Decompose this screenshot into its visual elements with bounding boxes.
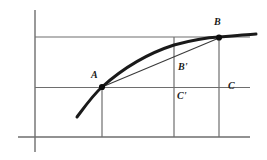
geometry-diagram: A B B' C' C bbox=[0, 0, 267, 160]
point-marker-b bbox=[216, 34, 222, 40]
label-point-c: C bbox=[228, 81, 235, 91]
label-point-a: A bbox=[91, 70, 98, 80]
label-point-b: B bbox=[214, 17, 221, 27]
diagram-canvas bbox=[0, 0, 267, 160]
label-point-c-prime: C' bbox=[177, 91, 186, 101]
concave-curve bbox=[77, 34, 256, 117]
axes-group bbox=[18, 10, 250, 152]
label-point-b-prime: B' bbox=[178, 62, 187, 72]
chord-segment-ab bbox=[102, 38, 219, 87]
point-marker-a bbox=[99, 84, 105, 90]
horizontal-gridlines-group bbox=[35, 37, 250, 88]
